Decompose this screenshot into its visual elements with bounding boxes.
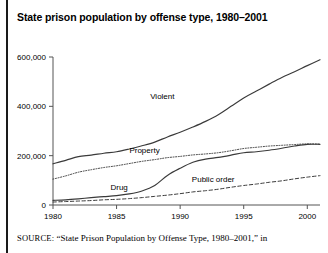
y-axis-tick-label: 200,000: [17, 152, 46, 161]
series-label-public-order: Public order: [192, 175, 235, 184]
source-note: SOURCE: “State Prison Population by Offe…: [17, 233, 322, 244]
y-axis-tick-label: 600,000: [17, 53, 46, 62]
x-axis-tick-label: 1980: [44, 212, 62, 221]
line-chart-svg: 0200,000400,000600,000 19801985199019952…: [0, 30, 328, 230]
y-axis-ticks: 0200,000400,000600,000: [17, 53, 53, 210]
y-axis-tick-label: 400,000: [17, 102, 46, 111]
chart-plot-area: 0200,000400,000600,000 19801985199019952…: [0, 30, 328, 230]
series-line-drug: [53, 144, 320, 200]
series-label-property: Property: [129, 146, 159, 155]
y-axis-tick-label: 0: [42, 201, 47, 210]
x-axis-tick-label: 2000: [298, 212, 316, 221]
source-text: “State Prison Population by Offense Type…: [57, 233, 268, 243]
x-axis-tick-label: 1995: [235, 212, 253, 221]
series-label-violent: Violent: [150, 92, 175, 101]
source-label: SOURCE:: [17, 233, 54, 243]
series-label-drug: Drug: [110, 183, 127, 192]
x-axis-ticks: 19801985199019952000: [44, 205, 317, 221]
series-line-public-order: [53, 176, 320, 202]
x-axis-tick-label: 1990: [171, 212, 189, 221]
page-title: State prison population by offense type,…: [17, 11, 317, 23]
figure-panel: State prison population by offense type,…: [0, 0, 328, 253]
chart-series-labels: ViolentPropertyDrugPublic order: [110, 92, 234, 192]
x-axis-tick-label: 1985: [108, 212, 126, 221]
chart-series-group: [53, 60, 320, 202]
